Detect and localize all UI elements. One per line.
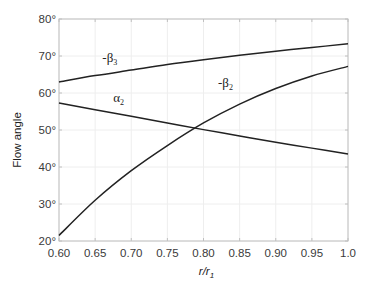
x-tick-label: 0.65 xyxy=(84,247,106,259)
y-axis-label: Flow angle xyxy=(11,112,23,168)
x-tick-label: 0.80 xyxy=(192,247,214,259)
x-tick-label: 0.70 xyxy=(120,247,142,259)
y-tick-label: 70° xyxy=(39,50,56,62)
x-tick-label: 0.85 xyxy=(228,247,250,259)
x-axis-label: r/r1 xyxy=(199,265,214,280)
x-tick-label: 1.0 xyxy=(340,247,356,259)
x-tick-label: 0.95 xyxy=(301,247,323,259)
flow-angle-chart: 0.600.650.700.750.800.850.900.951.0 20°3… xyxy=(0,0,377,294)
y-tick-label: 80° xyxy=(39,13,56,25)
y-tick-label: 20° xyxy=(39,235,56,247)
curve-label: -β3 xyxy=(102,50,117,67)
x-tick-label: 0.60 xyxy=(48,247,70,259)
x-tick-label: 0.75 xyxy=(156,247,178,259)
curve-label: -β2 xyxy=(218,75,233,92)
y-tick-label: 30° xyxy=(39,198,56,210)
x-axis-ticks: 0.600.650.700.750.800.850.900.951.0 xyxy=(48,19,356,259)
y-tick-label: 50° xyxy=(39,124,56,136)
y-tick-label: 40° xyxy=(39,161,56,173)
y-tick-label: 60° xyxy=(39,87,56,99)
x-tick-label: 0.90 xyxy=(265,247,287,259)
